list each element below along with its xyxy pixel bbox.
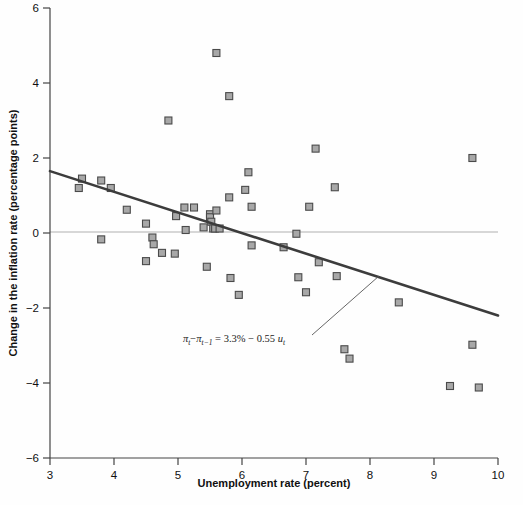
data-point-marker bbox=[213, 207, 220, 214]
y-axis-ticks: 6420−2−4−6 bbox=[26, 2, 50, 464]
data-point-marker bbox=[341, 346, 348, 353]
data-point-marker bbox=[149, 234, 156, 241]
data-point-marker bbox=[333, 273, 340, 280]
data-point-marker bbox=[248, 203, 255, 210]
x-tick-label: 4 bbox=[111, 469, 118, 481]
data-point-marker bbox=[143, 220, 150, 227]
data-point-marker bbox=[98, 177, 105, 184]
y-tick-label: 0 bbox=[33, 227, 39, 239]
annotation-leader-line bbox=[312, 276, 379, 335]
scatter-plot-figure: 6420−2−4−6 345678910 πt−πt−1 = 3.3% − 0.… bbox=[0, 0, 523, 505]
data-point-marker bbox=[469, 341, 476, 348]
data-point-marker bbox=[159, 249, 166, 256]
plot-svg: 6420−2−4−6 345678910 πt−πt−1 = 3.3% − 0.… bbox=[0, 0, 523, 505]
x-tick-label: 9 bbox=[431, 469, 437, 481]
data-point-marker bbox=[182, 227, 189, 234]
x-tick-label: 8 bbox=[367, 469, 373, 481]
data-point-marker bbox=[242, 186, 249, 193]
data-point-marker bbox=[248, 242, 255, 249]
data-point-marker bbox=[143, 258, 150, 265]
data-point-marker bbox=[227, 275, 234, 282]
data-point-marker bbox=[346, 355, 353, 362]
data-point-marker bbox=[203, 263, 210, 270]
data-point-marker bbox=[165, 117, 172, 124]
data-point-marker bbox=[235, 291, 242, 298]
data-point-marker bbox=[293, 230, 300, 237]
data-point-marker bbox=[447, 383, 454, 390]
x-tick-label: 3 bbox=[47, 469, 53, 481]
data-point-marker bbox=[331, 184, 338, 191]
data-point-marker bbox=[395, 299, 402, 306]
x-axis-title: Unemployment rate (percent) bbox=[198, 477, 351, 489]
y-axis-title: Change in the inflation rate (percentage… bbox=[7, 109, 19, 356]
data-point-marker bbox=[475, 384, 482, 391]
data-point-marker bbox=[295, 274, 302, 281]
y-tick-label: −2 bbox=[26, 302, 39, 314]
data-point-marker bbox=[312, 145, 319, 152]
y-tick-label: −6 bbox=[26, 452, 39, 464]
data-point-marker bbox=[191, 204, 198, 211]
data-point-marker bbox=[303, 289, 310, 296]
data-point-marker bbox=[245, 169, 252, 176]
data-point-marker bbox=[306, 203, 313, 210]
data-point-marker bbox=[226, 93, 233, 100]
data-point-marker bbox=[150, 241, 157, 248]
regression-equation-label: πt−πt−1 = 3.3% − 0.55 ut bbox=[183, 333, 286, 347]
data-point-marker bbox=[75, 185, 82, 192]
data-point-marker bbox=[171, 250, 178, 257]
regression-fit-line bbox=[50, 171, 498, 315]
data-point-marker bbox=[200, 224, 207, 231]
data-point-marker bbox=[98, 236, 105, 243]
y-tick-label: −4 bbox=[26, 377, 40, 389]
data-point-marker bbox=[213, 50, 220, 57]
y-tick-label: 4 bbox=[33, 77, 40, 89]
y-tick-label: 2 bbox=[33, 152, 39, 164]
y-tick-label: 6 bbox=[33, 2, 39, 14]
data-point-marker bbox=[181, 204, 188, 211]
data-point-marker bbox=[226, 194, 233, 201]
data-point-marker bbox=[123, 206, 130, 213]
data-point-marker bbox=[469, 155, 476, 162]
x-tick-label: 10 bbox=[492, 469, 505, 481]
x-tick-label: 5 bbox=[175, 469, 181, 481]
